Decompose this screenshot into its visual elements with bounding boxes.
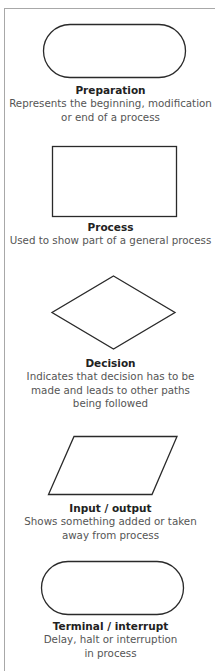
legend-description: Used to show part of a general process [6, 234, 215, 248]
legend-description: Shows something added or taken away from… [6, 515, 215, 542]
legend-description: Delay, halt or interruption in process [6, 633, 215, 660]
input-output-parallelogram-shape [49, 437, 178, 495]
legend-item-process: Process Used to show part of a general p… [6, 221, 215, 248]
legend-item-terminal-interrupt: Terminal / interrupt Delay, halt or inte… [6, 620, 215, 660]
legend-item-input-output: Input / output Shows something added or … [6, 502, 215, 542]
process-rectangle-shape [53, 147, 177, 217]
legend-title: Decision [6, 357, 215, 370]
legend-title: Input / output [6, 502, 215, 515]
legend-title: Process [6, 221, 215, 234]
legend-item-preparation: Preparation Represents the beginning, mo… [6, 84, 215, 124]
terminal-stadium-shape [42, 562, 184, 615]
preparation-stadium-shape [44, 25, 186, 78]
legend-description: Represents the beginning, modification o… [6, 97, 215, 124]
legend-item-decision: Decision Indicates that decision has to … [6, 357, 215, 411]
decision-diamond-shape [52, 276, 175, 349]
legend-title: Preparation [6, 84, 215, 97]
legend-title: Terminal / interrupt [6, 620, 215, 633]
legend-description: Indicates that decision has to be made a… [6, 370, 215, 411]
